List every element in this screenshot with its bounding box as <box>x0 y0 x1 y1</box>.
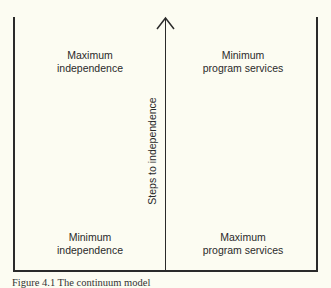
right-border <box>316 17 318 271</box>
label-minimum-program-services: Minimum program services <box>170 49 316 75</box>
label-maximum-independence: Maximum independence <box>20 49 160 75</box>
label-line2: independence <box>20 244 160 257</box>
label-line1: Minimum <box>170 49 316 62</box>
label-line1: Minimum <box>20 231 160 244</box>
label-line2: program services <box>170 62 316 75</box>
label-maximum-program-services: Maximum program services <box>170 231 316 257</box>
arrow-up-icon <box>155 16 176 30</box>
label-minimum-independence: Minimum independence <box>20 231 160 257</box>
label-line2: program services <box>170 244 316 257</box>
label-line1: Maximum <box>170 231 316 244</box>
left-border <box>13 17 15 271</box>
label-line1: Maximum <box>20 49 160 62</box>
label-line2: independence <box>20 62 160 75</box>
center-axis-line <box>165 18 167 271</box>
axis-label-steps-to-independence: Steps to independence <box>146 95 158 207</box>
figure-caption: Figure 4.1 The continuum model <box>12 277 150 288</box>
